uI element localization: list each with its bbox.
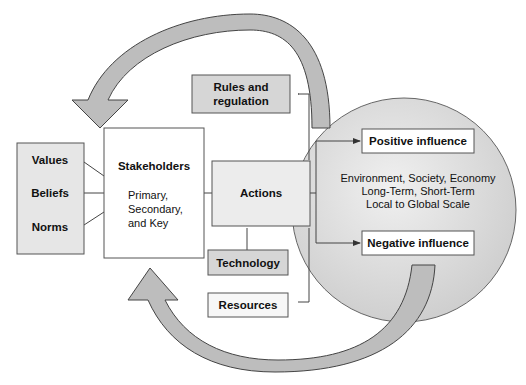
- positive-influence-label: Positive influence: [369, 135, 467, 147]
- stakeholders-line-3: and Key: [128, 217, 169, 229]
- rules-line-2: regulation: [213, 95, 269, 107]
- negative-influence-label: Negative influence: [367, 237, 469, 249]
- circle-line-1: Environment, Society, Economy: [340, 172, 496, 184]
- circle-line-3: Local to Global Scale: [366, 198, 470, 210]
- beliefs-label: Beliefs: [31, 187, 69, 199]
- rules-line-1: Rules and: [214, 81, 269, 93]
- stakeholders-title: Stakeholders: [118, 160, 190, 172]
- values-label: Values: [32, 154, 68, 166]
- circle-line-2: Long-Term, Short-Term: [361, 185, 474, 197]
- stakeholder-influence-diagram: Values Beliefs Norms Stakeholders Primar…: [0, 0, 526, 385]
- stakeholders-line-2: Secondary,: [128, 203, 183, 215]
- stakeholders-line-1: Primary,: [128, 189, 168, 201]
- actions-label: Actions: [240, 187, 282, 199]
- technology-label: Technology: [216, 257, 280, 269]
- norms-label: Norms: [32, 221, 68, 233]
- resources-label: Resources: [219, 299, 278, 311]
